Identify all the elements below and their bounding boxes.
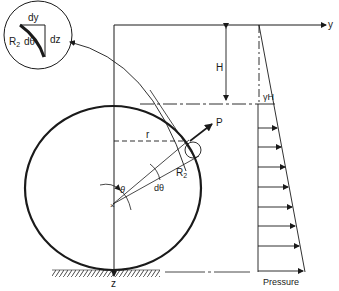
z-axis-label: z: [111, 278, 116, 289]
y-axis-label: y: [328, 19, 333, 30]
gamma-h-label: γH: [263, 92, 274, 102]
radius-r-label: r: [146, 129, 150, 140]
theta-arc: [100, 184, 120, 190]
vessel-shell: [25, 106, 201, 270]
pressure-caption: Pressure: [263, 277, 299, 287]
theta-label: θ: [120, 185, 125, 195]
inset-dz-label: dz: [50, 34, 61, 45]
dtheta-label: dθ: [154, 183, 164, 193]
p-label: P: [216, 117, 223, 128]
center-mark: ×: [110, 201, 115, 210]
inset-dy-label: dy: [28, 12, 39, 23]
pressure-slope-line: [259, 25, 305, 272]
h-label: H: [216, 62, 223, 73]
ground-support: [52, 270, 160, 277]
pressure-force-arrow: [190, 124, 212, 141]
inset-dtheta-label: dθ: [24, 36, 36, 47]
pressure-distribution: γH Pressure: [258, 25, 305, 287]
inset-r2-label: R2: [9, 36, 20, 48]
inset-detail: dy dz R2 dθ: [4, 1, 72, 69]
membrane-vessel-diagram: dy dz R2 dθ y z H r P R2 × θ dθ: [0, 0, 339, 291]
tangent-line: [150, 90, 195, 158]
